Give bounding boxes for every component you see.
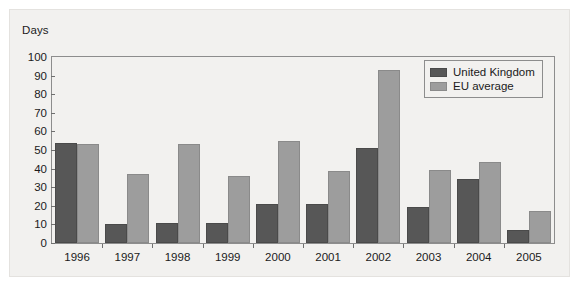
- y-axis-tick-mark: [51, 187, 55, 188]
- bar-eu-average-2003: [429, 170, 451, 243]
- x-axis-tick-mark: [403, 244, 404, 248]
- y-axis-tick-mark: [51, 243, 55, 244]
- y-axis-title: Days: [22, 24, 49, 36]
- x-axis-tick-label: 2001: [315, 251, 341, 263]
- y-axis-tick-label: 0: [3, 237, 47, 249]
- legend-swatch-eu-average: [430, 82, 447, 91]
- legend-item-eu-average: EU average: [430, 79, 535, 93]
- y-axis-tick-label: 60: [3, 125, 47, 137]
- y-axis-tick-mark: [51, 76, 55, 77]
- bar-united-kingdom-1997: [105, 224, 127, 243]
- y-axis-tick-mark: [51, 150, 55, 151]
- y-axis-tick-mark: [51, 169, 55, 170]
- bar-united-kingdom-2004: [457, 179, 479, 243]
- bar-chart-figure: Days 0102030405060708090100 United Kingd…: [0, 0, 579, 288]
- y-axis-tick-mark: [51, 131, 55, 132]
- x-axis-tick-mark: [203, 244, 204, 248]
- bar-eu-average-2002: [378, 70, 400, 243]
- bar-united-kingdom-2003: [407, 207, 429, 243]
- y-axis-tick-mark: [51, 206, 55, 207]
- x-axis-tick-label: 1999: [215, 251, 241, 263]
- bar-united-kingdom-1998: [156, 223, 178, 243]
- bar-united-kingdom-2002: [356, 148, 378, 243]
- y-axis-tick-mark: [51, 113, 55, 114]
- y-axis-tick-mark: [51, 94, 55, 95]
- bar-united-kingdom-2005: [507, 230, 529, 243]
- bar-eu-average-2004: [479, 162, 501, 243]
- bar-united-kingdom-2000: [256, 204, 278, 243]
- x-axis-tick-mark: [152, 244, 153, 248]
- x-axis-tick-mark: [253, 244, 254, 248]
- y-axis-tick-label: 20: [3, 200, 47, 212]
- x-axis-tick-label: 2002: [366, 251, 392, 263]
- bar-united-kingdom-2001: [306, 204, 328, 243]
- bar-eu-average-1997: [127, 174, 149, 243]
- y-axis-tick-label: 90: [3, 70, 47, 82]
- bar-eu-average-2000: [278, 141, 300, 243]
- bar-eu-average-1996: [77, 144, 99, 243]
- bar-united-kingdom-1999: [206, 223, 228, 243]
- x-axis-tick-mark: [102, 244, 103, 248]
- bar-eu-average-1998: [178, 144, 200, 243]
- chart-legend: United Kingdom EU average: [424, 60, 543, 98]
- y-axis-tick-labels: 0102030405060708090100: [0, 56, 47, 244]
- y-axis-tick-label: 70: [3, 107, 47, 119]
- x-axis-tick-label: 2005: [516, 251, 542, 263]
- y-axis-tick-label: 100: [3, 51, 47, 63]
- x-axis-tick-mark: [353, 244, 354, 248]
- y-axis-tick-label: 80: [3, 88, 47, 100]
- x-axis-tick-label: 2000: [265, 251, 291, 263]
- y-axis-tick-label: 30: [3, 181, 47, 193]
- x-axis-tick-mark: [454, 244, 455, 248]
- x-axis-tick-label: 2004: [466, 251, 492, 263]
- bar-eu-average-2001: [328, 171, 350, 243]
- y-axis-tick-mark: [51, 224, 55, 225]
- y-axis-tick-label: 10: [3, 218, 47, 230]
- y-axis-tick-label: 50: [3, 144, 47, 156]
- x-axis-tick-label: 1997: [115, 251, 141, 263]
- bar-united-kingdom-1996: [55, 143, 77, 243]
- x-axis-tick-label: 2003: [416, 251, 442, 263]
- bar-eu-average-2005: [529, 211, 551, 243]
- x-axis-tick-mark: [303, 244, 304, 248]
- x-axis-tick-label: 1996: [64, 251, 90, 263]
- legend-label-united-kingdom: United Kingdom: [453, 66, 535, 78]
- x-axis-tick-label: 1998: [165, 251, 191, 263]
- legend-swatch-united-kingdom: [430, 68, 447, 77]
- bar-eu-average-1999: [228, 176, 250, 243]
- y-axis-tick-label: 40: [3, 163, 47, 175]
- legend-item-united-kingdom: United Kingdom: [430, 65, 535, 79]
- x-axis-tick-mark: [504, 244, 505, 248]
- legend-label-eu-average: EU average: [453, 80, 514, 92]
